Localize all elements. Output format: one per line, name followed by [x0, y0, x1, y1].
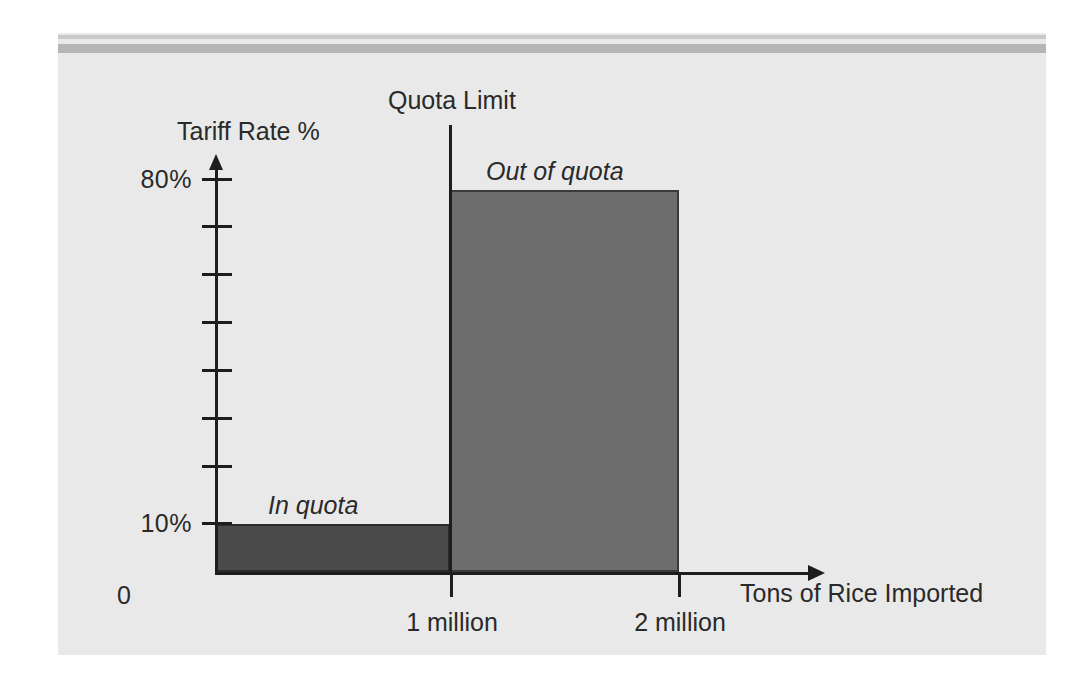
y-axis-label-10: 10% — [102, 509, 192, 538]
x-tick-2-million — [678, 573, 681, 597]
figure-panel: 80% 10% 0 1 million 2 million Tariff Rat… — [58, 33, 1046, 655]
x-axis-label-origin: 0 — [117, 581, 217, 610]
y-axis-label-80: 80% — [102, 165, 192, 194]
quota-limit-label: Quota Limit — [388, 86, 516, 115]
y-tick-mark-5 — [202, 369, 232, 372]
y-tick-80 — [202, 178, 232, 181]
bar-out-of-quota — [450, 190, 679, 572]
y-tick-mark-6 — [202, 417, 232, 420]
y-tick-mark-7 — [202, 465, 232, 468]
x-axis-label-2-million: 2 million — [580, 608, 780, 637]
x-axis-title: Tons of Rice Imported — [740, 579, 983, 608]
y-axis-arrow-icon — [209, 154, 223, 170]
y-tick-mark-4 — [202, 321, 232, 324]
y-tick-mark-2 — [202, 225, 232, 228]
y-tick-mark-3 — [202, 273, 232, 276]
chart-plot-area: 80% 10% 0 1 million 2 million Tariff Rat… — [58, 33, 1046, 655]
x-axis-line — [215, 572, 810, 575]
x-axis-label-1-million: 1 million — [352, 608, 552, 637]
y-axis-title: Tariff Rate % — [177, 117, 320, 146]
x-tick-1-million — [450, 573, 453, 597]
quota-limit-line — [449, 125, 452, 572]
out-of-quota-label: Out of quota — [486, 157, 624, 186]
bar-in-quota — [216, 524, 450, 572]
in-quota-label: In quota — [268, 491, 358, 520]
y-tick-10 — [202, 522, 232, 525]
